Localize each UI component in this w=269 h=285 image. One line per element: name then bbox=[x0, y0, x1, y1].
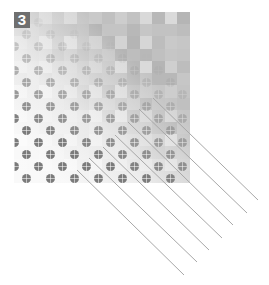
diagonal-leader-lines bbox=[0, 0, 269, 285]
leader-line bbox=[103, 147, 209, 250]
leader-line bbox=[153, 98, 258, 200]
leader-line bbox=[128, 122, 233, 225]
